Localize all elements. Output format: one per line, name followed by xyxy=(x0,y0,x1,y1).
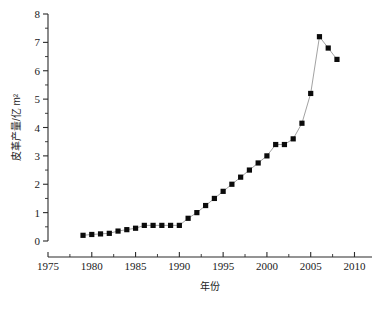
y-tick-label: 0 xyxy=(35,235,41,247)
data-point-marker xyxy=(124,227,129,232)
data-point-marker xyxy=(177,223,182,228)
x-tick-label: 1985 xyxy=(125,260,148,272)
data-point-marker xyxy=(194,210,199,215)
y-axis-title: 皮革产量/亿 m² xyxy=(10,93,22,161)
leather-production-line-chart: 012345678 197519801985199019952000200520… xyxy=(0,0,384,310)
data-point-marker xyxy=(212,196,217,201)
data-point-marker xyxy=(317,34,322,39)
y-tick-label: 3 xyxy=(35,150,41,162)
x-tick-label: 1995 xyxy=(212,260,235,272)
y-tick-label: 1 xyxy=(35,207,41,219)
y-tick-label: 2 xyxy=(35,178,41,190)
data-point-marker xyxy=(80,233,85,238)
data-point-marker xyxy=(89,232,94,237)
data-point-marker xyxy=(115,228,120,233)
y-tick-label: 7 xyxy=(35,36,41,48)
x-tick-label: 2005 xyxy=(300,260,323,272)
x-tick-label: 1975 xyxy=(37,260,60,272)
data-point-marker xyxy=(203,203,208,208)
data-point-marker xyxy=(291,136,296,141)
data-point-marker xyxy=(326,45,331,50)
data-point-marker xyxy=(186,216,191,221)
data-point-marker xyxy=(282,142,287,147)
data-point-marker xyxy=(221,189,226,194)
y-tick-label: 6 xyxy=(35,65,41,77)
data-point-marker xyxy=(299,121,304,126)
data-point-marker xyxy=(98,231,103,236)
y-tick-label: 5 xyxy=(35,93,41,105)
data-point-marker xyxy=(142,223,147,228)
data-point-marker xyxy=(247,167,252,172)
data-point-marker xyxy=(334,57,339,62)
y-tick-label: 4 xyxy=(35,122,41,134)
data-point-marker xyxy=(308,91,313,96)
x-tick-label: 2010 xyxy=(343,260,366,272)
data-point-marker xyxy=(256,160,261,165)
x-axis-title: 年份 xyxy=(200,280,220,292)
data-point-marker xyxy=(264,153,269,158)
y-tick-label: 8 xyxy=(35,8,41,20)
data-point-marker xyxy=(159,223,164,228)
data-point-marker xyxy=(229,182,234,187)
data-point-marker xyxy=(168,223,173,228)
data-point-marker xyxy=(133,226,138,231)
data-point-marker xyxy=(238,175,243,180)
x-tick-label: 2000 xyxy=(256,260,279,272)
data-point-marker xyxy=(107,231,112,236)
x-tick-label: 1990 xyxy=(168,260,191,272)
x-tick-label: 1980 xyxy=(81,260,104,272)
chart-figure: 012345678 197519801985199019952000200520… xyxy=(0,0,384,310)
data-point-marker xyxy=(273,142,278,147)
data-point-marker xyxy=(150,223,155,228)
